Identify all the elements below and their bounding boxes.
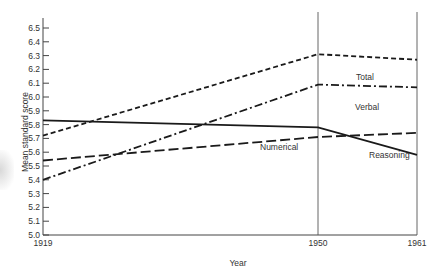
y-tick-label: 6.5 <box>28 23 40 33</box>
y-tick-label: 5.2 <box>28 202 40 212</box>
series-label-reasoning: Reasoning <box>369 150 410 160</box>
series-numerical <box>43 120 417 155</box>
y-tick-label: 6.4 <box>28 37 40 47</box>
x-tick-label: 1919 <box>34 238 53 248</box>
x-tick-label: 1961 <box>408 238 427 248</box>
series-label-total: Total <box>356 72 374 82</box>
y-tick-label: 5.1 <box>28 216 40 226</box>
y-tick-label: 5.4 <box>28 175 40 185</box>
series-verbal <box>43 85 417 180</box>
y-tick-label: 6.3 <box>28 51 40 61</box>
series-reasoning <box>43 133 417 161</box>
x-tick-label: 1950 <box>309 238 328 248</box>
line-chart: 5.05.15.25.35.45.55.65.75.85.96.06.16.26… <box>0 0 444 271</box>
y-tick-label: 6.1 <box>28 78 40 88</box>
x-axis-label: Year <box>229 258 246 268</box>
axes: 5.05.15.25.35.45.55.65.75.85.96.06.16.26… <box>28 12 427 248</box>
series-label-verbal: Verbal <box>355 102 379 112</box>
y-tick-label: 6.2 <box>28 64 40 74</box>
y-tick-label: 5.3 <box>28 189 40 199</box>
y-axis-label: Mean standard score <box>20 92 30 172</box>
series-total <box>43 54 417 135</box>
series-label-numerical: Numerical <box>260 142 298 152</box>
